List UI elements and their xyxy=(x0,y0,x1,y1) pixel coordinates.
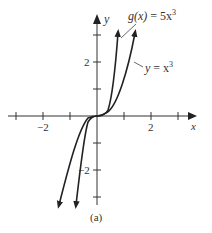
svg-text:y = x3: y = x3 xyxy=(144,60,173,75)
y-exp-label: 3 xyxy=(169,60,173,69)
y-axis: 2 −2 y xyxy=(78,12,110,205)
y-axis-arrow-icon xyxy=(93,14,101,24)
g-exp-label: 3 xyxy=(172,8,176,17)
cubic-functions-graph: −2 2 x 2 −2 y xyxy=(0,0,212,233)
y-eq-label: = x xyxy=(150,61,169,75)
y-axis-label: y xyxy=(103,12,110,26)
x-tick-label-2: 2 xyxy=(148,121,154,133)
x-axis-label: x xyxy=(190,120,196,132)
graph-canvas: −2 2 x 2 −2 y xyxy=(0,0,212,233)
annotation-g: g(x) = 5x3 xyxy=(121,8,176,38)
figure-caption: (a) xyxy=(90,211,103,224)
g-func-label: g(x) xyxy=(128,9,147,23)
g-eq-label: = 5x xyxy=(147,9,172,23)
svg-text:g(x) = 5x3: g(x) = 5x3 xyxy=(128,8,176,23)
x-tick-label-neg2: −2 xyxy=(37,121,49,133)
annotation-y: y = x3 xyxy=(134,60,173,75)
y-tick-label-2: 2 xyxy=(84,56,90,68)
x-axis-arrow-icon xyxy=(188,112,197,120)
